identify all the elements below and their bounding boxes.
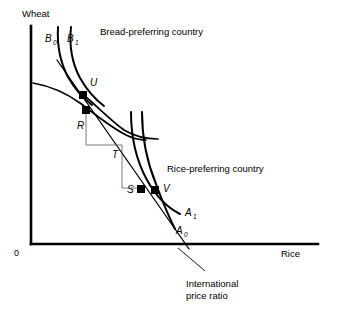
curve-label-b0-base: B [45,33,52,44]
origin-label: 0 [14,248,19,258]
point-label-r: R [77,120,84,131]
region-label-rice: Rice-preferring country [167,163,264,174]
curve-label-a0-base: A [175,225,183,236]
curve-label-b0: B 0 [45,33,57,46]
region-label-bread: Bread-preferring country [100,26,203,37]
curve-label-a0-subscript: 0 [184,231,188,238]
curve-label-b1-subscript: 1 [75,39,79,46]
caption-line-1: International [186,278,238,289]
point-label-s: S [127,184,134,195]
point-marker-u [79,91,87,99]
y-axis-label: Wheat [22,8,50,19]
curve-label-a1-base: A [184,207,192,218]
curve-label-a1-subscript: 1 [193,213,197,220]
international-price-ratio-line [57,60,189,249]
diagram-canvas: Wheat Rice 0 Bread-preferring country Ri… [0,0,337,320]
point-label-t: T [112,149,119,160]
caption-leader-line [178,248,205,271]
curve-label-a1: A 1 [184,207,197,220]
curve-label-b0-subscript: 0 [53,39,57,46]
point-label-v: V [163,183,171,194]
point-marker-v [151,186,159,194]
point-marker-s [137,185,145,193]
caption-line-2: price ratio [186,290,228,301]
point-marker-r [82,106,90,114]
curve-label-b1: B 1 [67,33,79,46]
x-axis-label: Rice [281,248,300,259]
offer-curve-figure: Wheat Rice 0 Bread-preferring country Ri… [0,0,337,320]
curve-label-b1-base: B [67,33,74,44]
point-label-u: U [90,77,98,88]
curve-label-a0: A 0 [175,225,188,238]
